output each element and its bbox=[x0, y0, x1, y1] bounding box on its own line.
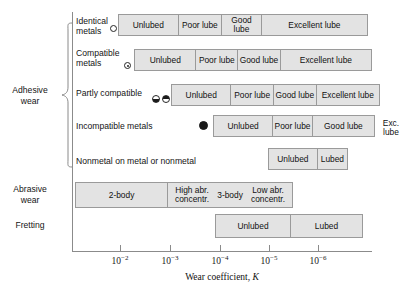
tick-exponent: −6 bbox=[319, 254, 326, 262]
x-axis-tick-1 bbox=[120, 245, 121, 252]
bar-partly-compatible: Unlubed Poor lube Good lube Excellent lu… bbox=[171, 84, 380, 106]
x-axis-title-symbol: K bbox=[253, 272, 259, 282]
segment-unlubed: Unlubed bbox=[214, 116, 273, 136]
open-circle-icon bbox=[110, 25, 117, 32]
segment-good-lube: Good lube bbox=[274, 85, 317, 105]
x-axis-tick-3 bbox=[220, 245, 221, 252]
filled-circle-icon bbox=[199, 121, 208, 130]
segment-good-lube: Good lube bbox=[222, 15, 262, 35]
wear-coefficient-chart: 10−2 10−3 10−4 10−5 10−6 Wear coefficien… bbox=[0, 0, 408, 293]
row-label-partly-compatible: Partly compatible bbox=[76, 88, 158, 98]
outside-label-exc-lube: Exc. lube bbox=[376, 119, 406, 137]
x-axis-tick-2 bbox=[170, 245, 171, 252]
half-circle-icon-1 bbox=[152, 95, 160, 103]
segment-2-body: 2-body bbox=[76, 183, 168, 207]
x-axis-title-text: Wear coefficient, bbox=[185, 272, 252, 282]
segment-unlubed: Unlubed bbox=[119, 15, 179, 35]
tick-exponent: −3 bbox=[171, 254, 178, 262]
tick-mantissa: 10 bbox=[162, 256, 172, 266]
segment-poor-lube: Poor lube bbox=[179, 15, 223, 35]
adhesive-wear-brace bbox=[60, 22, 74, 168]
x-axis-tick-4 bbox=[269, 245, 270, 252]
segment-poor-lube: Poor lube bbox=[231, 85, 274, 105]
group-label-fretting: Fretting bbox=[2, 220, 58, 231]
segment-good-lube: Good lube bbox=[313, 116, 374, 136]
segment-excellent-lube: Excellent lube bbox=[281, 50, 371, 70]
segment-unlubed: Unlubed bbox=[172, 85, 231, 105]
segment-excellent-lube: Excellent lube bbox=[317, 85, 379, 105]
x-axis-tick-label-4: 10−5 bbox=[261, 256, 278, 266]
dotted-circle-icon bbox=[124, 62, 131, 69]
tick-mantissa: 10 bbox=[261, 256, 271, 266]
bar-nonmetal: Unlubed Lubed bbox=[268, 148, 348, 170]
tick-exponent: −4 bbox=[221, 254, 228, 262]
x-axis-title: Wear coefficient, K bbox=[185, 272, 259, 282]
segment-lubed: Lubed bbox=[291, 215, 362, 237]
tick-mantissa: 10 bbox=[310, 256, 320, 266]
segment-poor-lube: Poor lube bbox=[273, 116, 313, 136]
x-axis-tick-label-3: 10−4 bbox=[212, 256, 229, 266]
row-label-compatible-metals: Compatible metals bbox=[76, 48, 128, 69]
row-label-incompatible-metals: Incompatible metals bbox=[76, 121, 186, 131]
x-axis-tick-label-5: 10−6 bbox=[310, 256, 327, 266]
annotation-low-abr-concentr: Low abr. concentr. bbox=[246, 186, 290, 204]
segment-lubed: Lubed bbox=[318, 149, 347, 169]
group-label-adhesive-wear: Adhesive wear bbox=[2, 85, 58, 106]
segment-poor-lube: Poor lube bbox=[196, 50, 238, 70]
half-circle-icon-2 bbox=[162, 95, 170, 103]
tick-exponent: −5 bbox=[270, 254, 277, 262]
bar-fretting: Unlubed Lubed bbox=[215, 214, 363, 238]
group-label-abrasive-wear: Abrasive wear bbox=[2, 184, 58, 205]
segment-unlubed: Unlubed bbox=[269, 149, 318, 169]
x-axis-line bbox=[72, 251, 372, 252]
segment-unlubed: Unlubed bbox=[216, 215, 291, 237]
x-axis-tick-5 bbox=[318, 245, 319, 252]
annotation-high-abr-concentr: High abr. concentr. bbox=[170, 186, 214, 204]
tick-exponent: −2 bbox=[121, 254, 128, 262]
x-axis-tick-label-2: 10−3 bbox=[162, 256, 179, 266]
bar-compatible-metals: Unlubed Poor lube Good lube Excellent lu… bbox=[134, 49, 372, 71]
segment-unlubed: Unlubed bbox=[135, 50, 196, 70]
bar-incompatible-metals: Unlubed Poor lube Good lube bbox=[213, 115, 375, 137]
tick-mantissa: 10 bbox=[212, 256, 222, 266]
segment-good-lube: Good lube bbox=[238, 50, 281, 70]
bar-identical-metals: Unlubed Poor lube Good lube Excellent lu… bbox=[118, 14, 368, 36]
x-axis-tick-label-1: 10−2 bbox=[112, 256, 129, 266]
tick-mantissa: 10 bbox=[112, 256, 122, 266]
segment-excellent-lube: Excellent lube bbox=[262, 15, 367, 35]
row-label-nonmetal: Nonmetal on metal or nonmetal bbox=[76, 156, 266, 166]
